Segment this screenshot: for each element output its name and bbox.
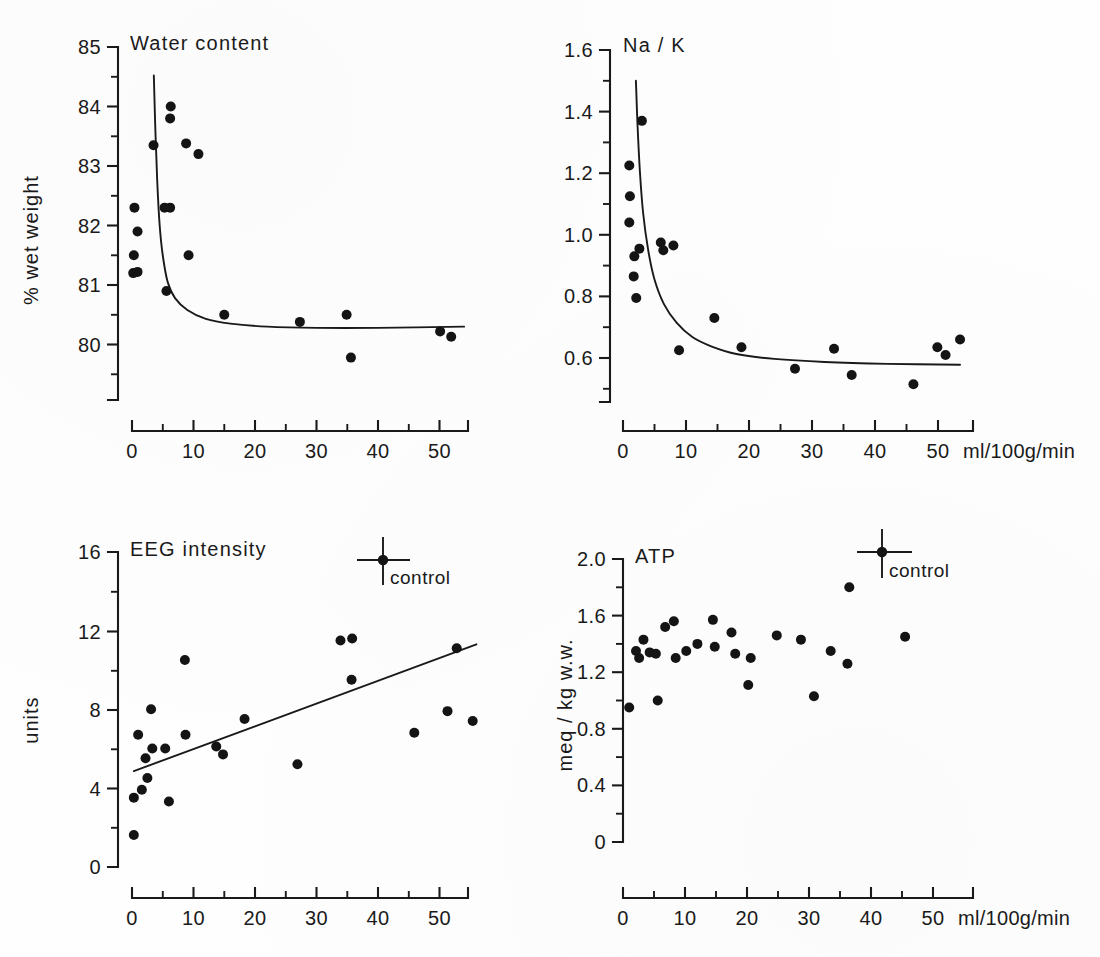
data-point [746,653,756,663]
data-point [335,635,345,645]
x-axis-unit-label-p2: ml/100g/min [963,440,1075,462]
x-axis-unit-label-p4: ml/100g/min [958,907,1070,929]
control-point-p4 [877,547,887,557]
y-axis-line-p2 [600,50,610,402]
panel-eeg-intensity: 16 12 8 4 0 units EEG intensity [0,480,550,957]
x-ticklabel-p2-10: 10 [674,440,697,462]
x-axis-line-p3 [132,888,468,898]
y-ticklabel-p3-4: 4 [89,778,101,800]
x-ticklabel-p3-20: 20 [243,907,266,929]
x-major-ticks-p1 [194,420,440,431]
data-point [634,653,644,663]
panel-na-k-plot: 1.6 1.4 1.2 1.0 0.8 0.6 Na / K 0 [550,0,1100,480]
y-ticklabel-p3-8: 8 [89,699,101,721]
fit-curve-p2 [636,81,960,365]
y-ticklabel-p4-04: 0.4 [577,774,606,796]
data-point [133,226,143,236]
data-point [790,364,800,374]
x-ticklabel-p1-40: 40 [366,440,389,462]
data-point [129,830,139,840]
panel-na-k: 1.6 1.4 1.2 1.0 0.8 0.6 Na / K 0 [550,0,1100,480]
data-point [671,653,681,663]
data-point [710,642,720,652]
data-point [164,797,174,807]
panel-water-content: 85 84 83 82 81 80 % wet weight Water con… [0,0,550,480]
y-ticklabel-p4-12: 1.2 [577,661,606,683]
data-point [346,353,356,363]
y-ticklabel-p4-0: 0 [594,831,606,853]
data-point [468,716,478,726]
data-point [180,655,190,665]
x-axis-line-p1 [132,421,468,431]
x-ticklabel-p3-30: 30 [305,907,328,929]
data-point [743,680,753,690]
y-ticklabel-p3-12: 12 [78,621,101,643]
y-ticklabel-p1-83: 83 [78,155,101,177]
y-ticklabel-p1-81: 81 [78,274,101,296]
data-point [847,370,857,380]
data-point [165,113,175,123]
data-point [147,744,157,754]
panel-title-p4: ATP [635,545,676,567]
y-ticklabel-p2-14: 1.4 [564,101,593,123]
data-point [772,630,782,640]
control-marker-p4: control [857,529,950,581]
data-point [142,773,152,783]
data-point [708,615,718,625]
data-point [129,250,139,260]
y-axis-line-p1 [108,47,118,400]
x-ticklabel-p1-50: 50 [428,440,451,462]
data-point [435,326,445,336]
x-ticklabel-p3-0: 0 [126,907,138,929]
data-point [193,149,203,159]
y-axis-title-p4: meq / kg w.w. [554,638,576,771]
data-point [446,332,456,342]
x-major-ticks-p2 [686,420,938,431]
data-point [638,635,648,645]
data-point [651,649,661,659]
x-ticklabel-p2-50: 50 [926,440,949,462]
data-point [452,643,462,653]
panel-title-p1: Water content [130,32,269,54]
x-major-ticks-p3 [194,887,440,898]
data-point [219,310,229,320]
y-major-ticks-p2 [599,112,610,358]
data-point [796,635,806,645]
data-point [629,271,639,281]
data-point [624,161,634,171]
data-point [295,317,305,327]
data-point [240,714,250,724]
scatter-points-p3 [129,633,478,839]
y-ticklabel-p1-85: 85 [78,36,101,58]
data-point [809,691,819,701]
data-point [146,704,156,714]
x-axis-line-p4 [623,888,973,898]
panel-atp: 2.0 1.6 1.2 0.8 0.4 0 meq / kg w.w. ATP [550,480,1100,957]
data-point [342,310,352,320]
data-point [631,293,641,303]
data-point [129,793,139,803]
control-label-p4: control [889,560,950,581]
y-axis-title-p3: units [20,696,42,743]
data-point [730,649,740,659]
y-ticklabel-p2-06: 0.6 [564,347,593,369]
y-ticklabel-p2-12: 1.2 [564,162,593,184]
y-ticklabel-p3-0: 0 [89,856,101,878]
data-point [908,379,918,389]
x-axis-line-p2 [623,421,973,431]
panel-atp-plot: 2.0 1.6 1.2 0.8 0.4 0 meq / kg w.w. ATP [550,480,1100,957]
data-point [443,706,453,716]
data-point [137,785,147,795]
x-ticklabel-p4-0: 0 [617,907,629,929]
data-point [727,628,737,638]
x-ticklabel-p3-10: 10 [182,907,205,929]
data-point [211,742,221,752]
y-ticklabel-p1-82: 82 [78,215,101,237]
x-ticklabel-p1-10: 10 [182,440,205,462]
data-point [955,335,965,345]
panel-title-p2: Na / K [623,34,686,56]
data-point [709,313,719,323]
data-point [900,632,910,642]
x-ticklabel-p1-30: 30 [305,440,328,462]
data-point [129,203,139,213]
